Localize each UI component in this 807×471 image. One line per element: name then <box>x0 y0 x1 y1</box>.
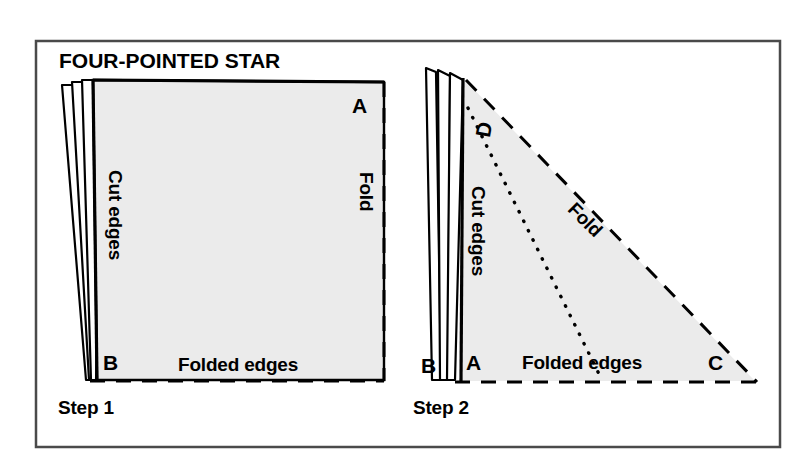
step2-label-corner-a: A <box>466 352 481 373</box>
step1-label-corner-b: B <box>103 352 118 373</box>
step1-label-folded-edges: Folded edges <box>178 355 298 374</box>
step2-label-corner-c: C <box>708 352 723 373</box>
four-pointed-star-diagram: FOUR-POINTED STAR A B Cut edges Fold Fol… <box>0 0 807 471</box>
step1-label-fold: Fold <box>357 172 376 211</box>
step1-label-corner-a: A <box>352 95 367 116</box>
step2-label-cut-edges: Cut edges <box>469 186 488 276</box>
step1-caption: Step 1 <box>58 398 114 417</box>
step2-label-corner-b: B <box>421 355 436 376</box>
step1-label-cut-edges: Cut edges <box>106 170 125 260</box>
step2-caption: Step 2 <box>413 398 469 417</box>
step2-label-folded-edges: Folded edges <box>522 353 642 372</box>
page-title: FOUR-POINTED STAR <box>59 50 280 71</box>
step2-main-triangle <box>461 78 755 381</box>
step1-main-sheet <box>93 80 384 380</box>
step1-top-edge <box>93 80 384 82</box>
step2-left-edge-cut <box>461 78 463 381</box>
